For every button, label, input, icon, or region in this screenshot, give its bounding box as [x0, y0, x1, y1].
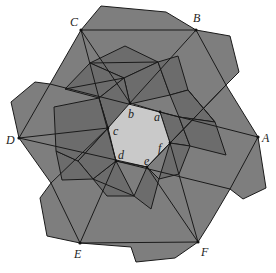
vertex-label-a: a — [154, 110, 160, 124]
vertex-label-A: A — [261, 131, 270, 145]
vertex-label-e: e — [144, 154, 150, 168]
vertex-label-C: C — [70, 15, 79, 29]
tiling-diagram: ABCDEFabcdef — [0, 0, 276, 273]
tile-layer — [11, 6, 266, 262]
vertex-label-F: F — [200, 245, 209, 259]
vertex-label-d: d — [118, 148, 125, 162]
vertex-label-b: b — [128, 107, 134, 121]
vertex-label-c: c — [113, 124, 119, 138]
vertex-label-B: B — [193, 11, 201, 25]
vertex-label-E: E — [73, 247, 82, 261]
vertex-label-D: D — [5, 133, 15, 147]
